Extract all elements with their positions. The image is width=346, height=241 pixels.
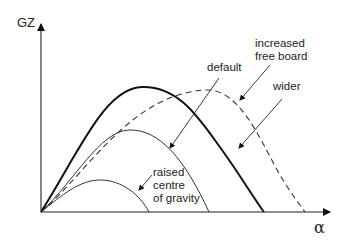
label-raised-3: of gravity [153,192,200,205]
arrow-wider [239,99,282,148]
label-increased-freeboard-1: increased [255,37,305,50]
arrow-raised-cog [139,175,152,190]
label-raised-2: centre [153,179,185,192]
label-default: default [207,61,242,74]
arrow-default [170,78,219,148]
label-increased-freeboard-2: free board [255,50,307,63]
y-axis-label: GZ [17,15,35,30]
arrow-increased-freeboard [240,65,270,100]
label-wider: wider [273,80,300,93]
label-raised-1: raised [153,166,184,179]
x-axis-label: α [314,218,325,237]
